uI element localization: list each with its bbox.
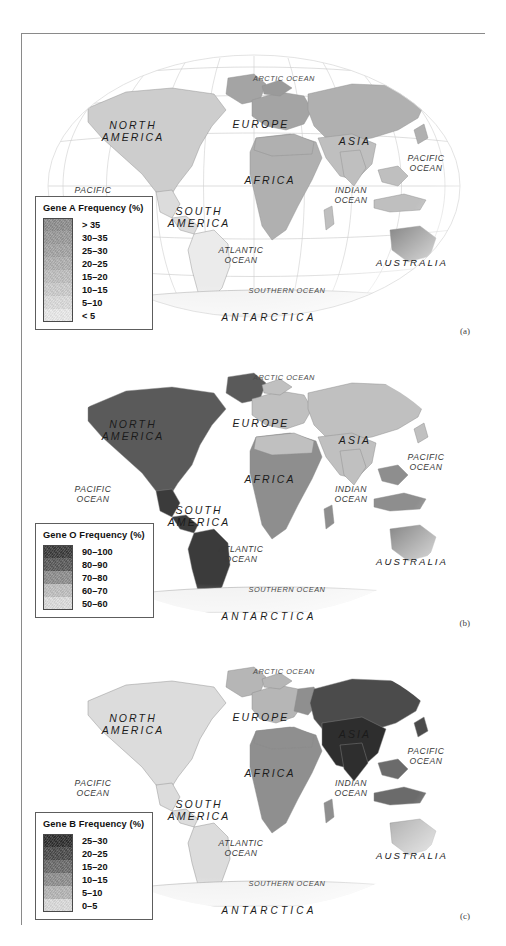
- legend-row: < 5: [43, 309, 144, 322]
- legend-row: 30–35: [43, 231, 144, 244]
- legend-gene-o: Gene O Frequency (%) 90–100 80–90 70–80 …: [35, 523, 154, 618]
- legend-label: 5–10: [82, 888, 102, 898]
- legend-row: 20–25: [43, 847, 144, 860]
- legend-swatch: [43, 545, 73, 558]
- legend-row: 10–15: [43, 283, 144, 296]
- legend-swatch: [43, 257, 73, 270]
- legend-swatch: [43, 571, 73, 584]
- legend-row: 20–25: [43, 257, 144, 270]
- legend-label: 80–90: [82, 560, 108, 570]
- legend-swatch: [43, 597, 73, 610]
- legend-label: 25–30: [82, 246, 108, 256]
- legend-row: 60–70: [43, 584, 145, 597]
- panel-letter-a: (a): [460, 326, 470, 336]
- panel-gene-b: NORTH AMERICA SOUTH AMERICA EUROPE ASIA …: [22, 631, 486, 925]
- legend-swatch: [43, 886, 73, 899]
- legend-label: 20–25: [82, 259, 108, 269]
- legend-row: 10–15: [43, 873, 144, 886]
- legend-label: 20–25: [82, 849, 108, 859]
- legend-label: 30–35: [82, 233, 108, 243]
- legend-row: 15–20: [43, 860, 144, 873]
- legend-swatch: [43, 899, 73, 912]
- legend-gene-b: Gene B Frequency (%) 25–30 20–25 15–20 1…: [35, 812, 153, 920]
- legend-label: 0–5: [82, 901, 97, 911]
- figure-frame: NORTH AMERICA SOUTH AMERICA EUROPE ASIA …: [21, 33, 485, 925]
- legend-row: 50–60: [43, 597, 145, 610]
- legend-swatch: [43, 270, 73, 283]
- legend-swatch: [43, 244, 73, 257]
- legend-label: 70–80: [82, 573, 108, 583]
- panel-letter-b: (b): [460, 618, 471, 628]
- legend-row: 25–30: [43, 244, 144, 257]
- legend-row: 5–10: [43, 296, 144, 309]
- legend-swatch: [43, 231, 73, 244]
- legend-swatch: [43, 834, 73, 847]
- panel-gene-o: NORTH AMERICA SOUTH AMERICA EUROPE ASIA …: [22, 339, 486, 631]
- legend-row: 70–80: [43, 571, 145, 584]
- legend-title-gene-b: Gene B Frequency (%): [43, 819, 144, 829]
- legend-swatch: [43, 309, 73, 322]
- legend-rows-gene-a: > 35 30–35 25–30 20–25 15–20: [43, 218, 144, 322]
- legend-label: 60–70: [82, 586, 108, 596]
- legend-swatch: [43, 558, 73, 571]
- legend-row: 5–10: [43, 886, 144, 899]
- legend-label: 10–15: [82, 285, 108, 295]
- legend-row: > 35: [43, 218, 144, 231]
- legend-swatch: [43, 860, 73, 873]
- legend-title-gene-a: Gene A Frequency (%): [43, 203, 144, 213]
- legend-label: 90–100: [82, 547, 113, 557]
- legend-row: 80–90: [43, 558, 145, 571]
- legend-label: 50–60: [82, 599, 108, 609]
- legend-title-gene-o: Gene O Frequency (%): [43, 530, 145, 540]
- legend-row: 0–5: [43, 899, 144, 912]
- legend-swatch: [43, 873, 73, 886]
- legend-swatch: [43, 283, 73, 296]
- legend-label: < 5: [82, 311, 95, 321]
- legend-label: 5–10: [82, 298, 102, 308]
- legend-swatch: [43, 847, 73, 860]
- legend-label: 15–20: [82, 862, 108, 872]
- legend-swatch: [43, 584, 73, 597]
- legend-rows-gene-b: 25–30 20–25 15–20 10–15 5–10: [43, 834, 144, 912]
- legend-gene-a: Gene A Frequency (%) > 35 30–35 25–30 20…: [35, 196, 153, 330]
- legend-swatch: [43, 296, 73, 309]
- legend-swatch: [43, 218, 73, 231]
- panel-gene-a: NORTH AMERICA SOUTH AMERICA EUROPE ASIA …: [22, 34, 486, 339]
- legend-row: 15–20: [43, 270, 144, 283]
- legend-label: 10–15: [82, 875, 108, 885]
- legend-rows-gene-o: 90–100 80–90 70–80 60–70 50–60: [43, 545, 145, 610]
- legend-label: > 35: [82, 220, 100, 230]
- legend-row: 90–100: [43, 545, 145, 558]
- panel-letter-c: (c): [460, 911, 470, 921]
- legend-row: 25–30: [43, 834, 144, 847]
- legend-label: 25–30: [82, 836, 108, 846]
- legend-label: 15–20: [82, 272, 108, 282]
